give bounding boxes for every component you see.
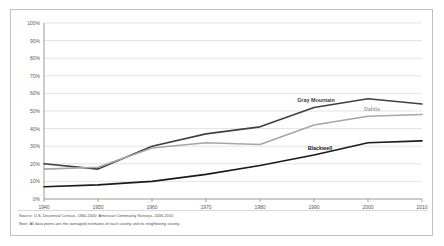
series-label-gray-mountain: Gray Mountain	[297, 97, 335, 103]
y-tick-label: 100%	[27, 20, 40, 26]
series-label-blackwell: Blackwell	[308, 145, 333, 151]
y-axis-tick-labels: 0%10%20%30%40%50%60%70%80%90%100%	[27, 20, 40, 202]
gridlines	[44, 23, 422, 181]
line-chart: 0%10%20%30%40%50%60%70%80%90%100% 194019…	[11, 10, 434, 237]
y-tick-label: 0%	[33, 196, 41, 202]
chart-card: 0%10%20%30%40%50%60%70%80%90%100% 194019…	[10, 9, 433, 236]
y-tick-label: 40%	[30, 126, 41, 132]
y-tick-label: 50%	[30, 108, 41, 114]
x-tick-marks	[44, 199, 422, 202]
y-tick-label: 20%	[30, 161, 41, 167]
footnote-source: Source: U.S. Decennial Census, 1940-2000…	[19, 213, 173, 218]
y-tick-label: 60%	[30, 90, 41, 96]
y-tick-label: 30%	[30, 143, 41, 149]
footnote-divider	[17, 210, 428, 211]
footnote-note: Note: All data points are the averaged e…	[19, 221, 180, 226]
y-tick-label: 90%	[30, 38, 41, 44]
y-tick-label: 70%	[30, 73, 41, 79]
series-label-dahlia: Dahlia	[364, 106, 381, 112]
y-tick-label: 10%	[30, 178, 41, 184]
y-tick-label: 80%	[30, 55, 41, 61]
series-line-dahlia	[44, 115, 422, 170]
